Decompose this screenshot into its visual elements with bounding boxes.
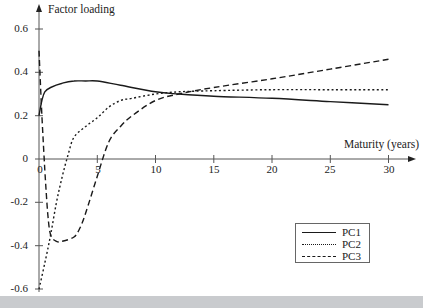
x-tick-label: 15 <box>204 163 224 175</box>
solid-line-swatch-icon <box>302 232 336 233</box>
legend: PC1 PC2 PC3 <box>295 223 370 263</box>
x-tick-label: 10 <box>146 163 166 175</box>
legend-label: PC2 <box>342 238 361 250</box>
dashed-line-swatch-icon <box>302 256 336 257</box>
y-tick-label: -0.6 <box>0 282 28 294</box>
y-axis-title: Factor loading <box>48 3 115 15</box>
y-tick-label: -0.2 <box>0 195 28 207</box>
y-tick-label: 0.4 <box>0 65 28 77</box>
x-axis-title: Maturity (years) <box>344 138 419 150</box>
pc1-line <box>39 81 389 116</box>
x-tick-label: 30 <box>379 163 399 175</box>
x-tick-label: 25 <box>320 163 340 175</box>
pc3-line <box>39 51 389 242</box>
legend-label: PC1 <box>342 226 361 238</box>
y-tick-label: -0.4 <box>0 239 28 251</box>
legend-item-pc1: PC1 <box>302 226 361 238</box>
x-tick-label: 5 <box>88 163 108 175</box>
footer-band <box>0 296 423 308</box>
y-tick-label: 0.2 <box>0 109 28 121</box>
legend-item-pc2: PC2 <box>302 238 361 250</box>
legend-label: PC3 <box>342 250 361 262</box>
y-tick-label: 0.6 <box>0 22 28 34</box>
x-axis-arrow-icon <box>408 156 416 162</box>
legend-item-pc3: PC3 <box>302 250 361 262</box>
dotted-line-swatch-icon <box>302 244 336 245</box>
y-tick-label: 0 <box>0 152 28 164</box>
x-tick-label: 0 <box>30 163 50 175</box>
y-axis-arrow-icon <box>36 4 42 12</box>
x-tick-label: 20 <box>262 163 282 175</box>
